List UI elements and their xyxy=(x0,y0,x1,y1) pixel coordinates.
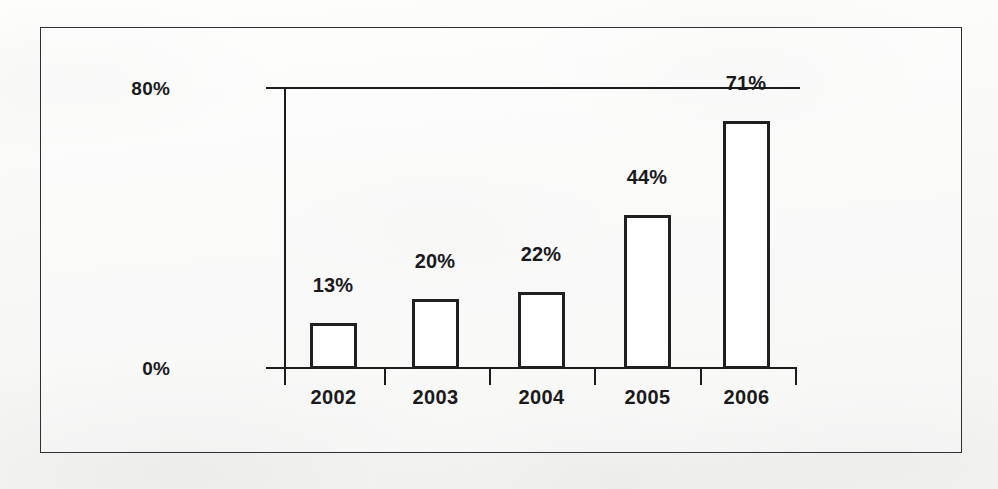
bar-2006 xyxy=(723,121,770,369)
x-axis-label-2005: 2005 xyxy=(594,386,701,409)
axis-line-y xyxy=(284,88,286,369)
x-tick-mark-1 xyxy=(384,369,386,385)
bar-value-2005: 44% xyxy=(602,166,692,189)
x-axis-label-2003: 2003 xyxy=(382,386,489,409)
bar-value-2006: 71% xyxy=(701,72,791,95)
y-tick-mark-80 xyxy=(266,87,285,89)
y-tick-mark-0 xyxy=(266,367,285,369)
x-tick-mark-3 xyxy=(594,369,596,385)
bar-2002 xyxy=(310,323,357,369)
x-tick-mark-2 xyxy=(489,369,491,385)
bar-2004 xyxy=(518,292,565,369)
bar-value-2003: 20% xyxy=(390,250,480,273)
x-tick-mark-5 xyxy=(795,369,797,385)
bar-chart: 80% 0% 13% 2002 20% 2003 22% 2004 44% 20… xyxy=(0,0,998,489)
x-tick-mark-4 xyxy=(700,369,702,385)
bar-2005 xyxy=(624,215,671,369)
x-axis-label-2004: 2004 xyxy=(488,386,595,409)
bar-value-2002: 13% xyxy=(288,274,378,297)
bar-2003 xyxy=(412,299,459,369)
y-axis-label-0: 0% xyxy=(80,358,170,380)
x-tick-mark-0 xyxy=(284,369,286,385)
y-axis-label-80: 80% xyxy=(80,78,170,100)
x-axis-label-2002: 2002 xyxy=(280,386,387,409)
x-axis-label-2006: 2006 xyxy=(693,386,800,409)
bar-value-2004: 22% xyxy=(496,243,586,266)
